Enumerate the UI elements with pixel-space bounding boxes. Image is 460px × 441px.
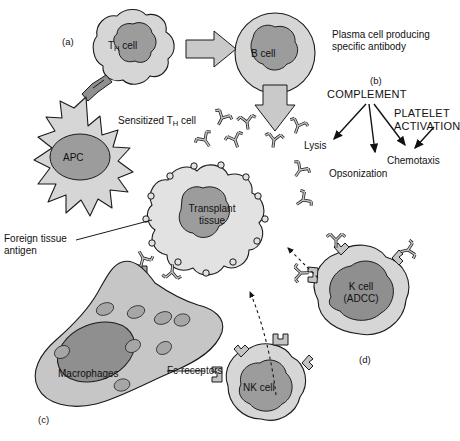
antigen-dot <box>243 174 249 180</box>
antigen-dot <box>148 193 154 199</box>
complement-label: COMPLEMENT <box>327 88 407 101</box>
panel-label-a: (a) <box>62 36 74 47</box>
k-cell-label: K cell(ADCC) <box>330 281 392 305</box>
b-cell-label: B cell <box>251 48 275 60</box>
sensitized-th-annotation: Sensitized TH cell <box>118 115 196 129</box>
antigen-dot <box>255 193 261 199</box>
antibody-icon <box>291 189 313 212</box>
foreign-antigen-leader <box>76 220 152 240</box>
arrow-to-lysis <box>334 104 366 139</box>
nk-cell-label: NK cell <box>243 382 275 394</box>
fc-receptor-icon <box>273 334 288 345</box>
panel-label-c: (c) <box>38 414 49 425</box>
antigen-dot <box>191 163 197 169</box>
immunology-diagram: (a) TH cell B cell Plasma cell producing… <box>0 0 460 441</box>
antibody-icon <box>237 115 257 131</box>
nk-cell <box>212 334 313 420</box>
th-cell-label: TH cell <box>108 40 137 54</box>
lysis-label: Lysis <box>304 140 326 152</box>
macrophage-cell <box>35 261 223 406</box>
fc-receptor-icon <box>308 267 318 283</box>
antigen-dot <box>167 173 173 179</box>
arrow-to-opsonization <box>369 104 375 152</box>
block-arrow-secretion <box>255 85 295 131</box>
platelet-activation-label: PLATELETACTIVATION <box>394 107 460 133</box>
fc-receptors-annotation: Fc receptors <box>167 365 223 377</box>
antibody-secretion-arrow <box>255 85 295 131</box>
activation-block-arrow <box>186 31 236 67</box>
antibody-icon <box>210 108 233 129</box>
antigen-dot <box>230 259 236 265</box>
antibody-icon <box>295 263 309 282</box>
opsonization-label: Opsonization <box>329 168 387 180</box>
fc-receptor-icon <box>302 355 313 370</box>
antigen-dot <box>149 240 155 246</box>
antigen-dot <box>203 270 209 276</box>
antigen-dot <box>254 238 260 244</box>
panel-label-b: (b) <box>370 75 382 86</box>
antigen-dot <box>262 216 268 222</box>
plasma-cell-annotation: Plasma cell producingspecific antibody <box>332 29 430 53</box>
antibody-icon <box>224 131 246 150</box>
antigen-dot <box>175 259 181 265</box>
panel-label-d: (d) <box>359 354 371 365</box>
macrophages-label: Macrophages <box>58 368 119 380</box>
chemotaxis-label: Chemotaxis <box>387 155 440 167</box>
antibody-icon <box>288 160 311 182</box>
transplant-tissue-label: Transplanttissue <box>178 203 246 227</box>
foreign-antigen-annotation: Foreign tissueantigen <box>4 233 67 257</box>
antibody-icon <box>264 133 284 149</box>
apc-label: APC <box>63 152 84 164</box>
antigen-dot <box>218 162 224 168</box>
block-arrow-th-to-b <box>186 31 236 67</box>
antibody-icon <box>399 240 416 261</box>
antibody-icon <box>194 130 217 152</box>
antibody-icon <box>287 117 309 136</box>
